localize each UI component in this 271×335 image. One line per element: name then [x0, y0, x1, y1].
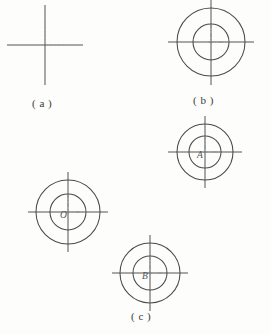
technical-drawing-canvas: AOB: [0, 0, 271, 335]
part-c-b-center-label: B: [142, 271, 148, 281]
part-c-o-center-label: O: [60, 210, 67, 220]
part-b: [168, 0, 254, 85]
part-c-a: A: [168, 116, 242, 188]
caption-part-b: ( b ): [193, 94, 214, 106]
caption-part-a: ( a ): [32, 97, 52, 109]
part-c-b: B: [112, 235, 188, 311]
part-c-a-center-label: A: [196, 150, 203, 160]
figure-root: AOB ( a ) ( b ) ( c ): [0, 0, 271, 335]
part-c-o: O: [28, 172, 108, 252]
part-a: [7, 5, 83, 85]
caption-part-c: ( c ): [131, 310, 151, 322]
